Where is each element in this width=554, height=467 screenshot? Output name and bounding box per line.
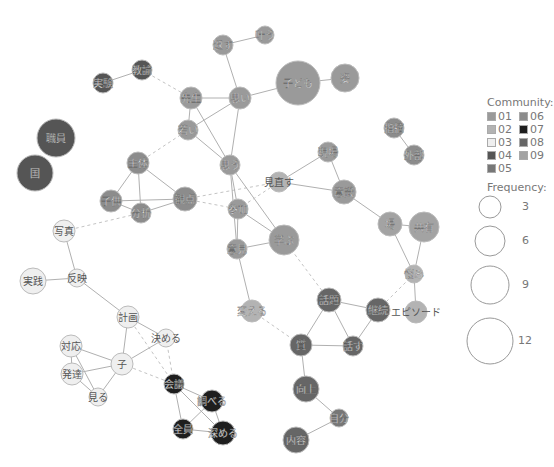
node-bunseki[interactable]: 分析 — [131, 203, 151, 223]
node-label: 子 — [117, 359, 127, 370]
legend-item-01: 01 — [487, 110, 519, 122]
node-label: 職員 — [46, 133, 66, 144]
node-label: 若い — [178, 124, 198, 136]
node-label: 見直す — [264, 176, 294, 188]
node-sensei[interactable]: 先生 — [180, 87, 202, 109]
node-kaesu[interactable]: 返す — [213, 35, 233, 55]
edge-dashed — [128, 317, 174, 384]
node-ishiki[interactable]: 意識 — [332, 180, 356, 204]
node-episode[interactable]: エピソード — [391, 301, 441, 323]
legend-swatch — [487, 112, 496, 121]
node-kaigi[interactable]: 会議 — [164, 374, 184, 394]
node-label: 参加 — [228, 203, 248, 215]
node-iken[interactable]: 意見 — [227, 239, 247, 259]
node-label: 分析 — [131, 207, 151, 219]
node-label: 話題 — [319, 294, 339, 306]
node-shiteki[interactable]: 指摘 — [384, 118, 404, 138]
node-taiou[interactable]: 対応 — [60, 335, 82, 357]
legend-label: 05 — [498, 162, 512, 175]
frequency-circle-6 — [475, 226, 505, 256]
node-ba[interactable]: 場 — [378, 212, 402, 236]
node-label: 外部 — [404, 149, 424, 161]
edges-layer — [33, 35, 424, 440]
frequency-circle-9 — [471, 266, 509, 304]
node-label: 向上 — [296, 383, 316, 395]
node-kodomo[interactable]: 子ども — [276, 61, 320, 105]
legend-swatch — [487, 138, 496, 147]
node-shokuin[interactable]: 職員 — [37, 119, 75, 157]
node-kuni[interactable]: 国 — [17, 155, 53, 191]
node-jikken[interactable]: 実験 — [93, 73, 113, 93]
frequency-label: 3 — [522, 200, 529, 213]
legend-label: 04 — [498, 149, 512, 162]
node-shiraberu[interactable]: 調べる — [197, 390, 227, 412]
community-legend-title: Community: — [487, 96, 554, 109]
frequency-label: 9 — [522, 278, 529, 291]
node-kyouyu[interactable]: 教諭 — [132, 60, 152, 80]
node-label: 計画 — [118, 311, 138, 323]
node-jissen[interactable]: 実践 — [20, 268, 46, 294]
node-shashin[interactable]: 写真 — [53, 220, 75, 242]
legend-label: 07 — [530, 123, 544, 136]
legend-swatch — [519, 151, 528, 160]
node-label: 調べる — [197, 395, 227, 407]
legend-label: 08 — [530, 136, 544, 149]
node-naiyou[interactable]: 内容 — [283, 427, 309, 453]
frequency-circle-3 — [479, 196, 501, 218]
node-ko[interactable]: 子 — [111, 353, 133, 375]
node-wakai[interactable]: 若い — [178, 120, 198, 140]
node-keizoku[interactable]: 継続 — [366, 298, 390, 322]
node-kanten[interactable]: 観点 — [173, 187, 197, 211]
node-kodomo2[interactable]: 子供 — [100, 190, 122, 212]
node-label: 返す — [213, 40, 233, 51]
node-zenin[interactable]: 全員 — [173, 419, 193, 439]
node-nayami[interactable]: 悩み — [404, 265, 424, 283]
node-fukameru[interactable]: 深める — [208, 421, 238, 445]
community-legend: Community: 010602070308040905 — [487, 96, 554, 174]
node-hanasu[interactable]: 話す — [343, 336, 363, 356]
node-label: 子供 — [101, 195, 121, 207]
legend-item-03: 03 — [487, 136, 519, 148]
node-label: 共有 — [414, 221, 434, 233]
node-label: 自分 — [329, 412, 349, 424]
node-kyouyuu[interactable]: 共有 — [409, 212, 439, 242]
legend-swatch — [487, 151, 496, 160]
node-label: 姿 — [340, 72, 350, 84]
legend-label: 03 — [498, 136, 512, 149]
node-shutai[interactable]: 主体 — [127, 152, 149, 174]
node-jigyou[interactable]: 自分 — [329, 409, 349, 427]
node-omoi[interactable]: 思い — [229, 87, 251, 109]
node-manabu[interactable]: 学ぶ — [269, 225, 299, 255]
node-label: 観点 — [175, 193, 195, 205]
legend-item-04: 04 — [487, 149, 519, 161]
node-sanka[interactable]: 参加 — [228, 199, 248, 219]
node-label: 継続 — [368, 304, 388, 316]
node-gaibu[interactable]: 外部 — [404, 145, 424, 165]
node-hattatsu[interactable]: 発達 — [61, 363, 83, 385]
node-sugata[interactable]: 姿 — [331, 64, 359, 92]
node-label: 決める — [151, 333, 181, 344]
legend-swatch — [487, 125, 496, 134]
frequency-label: 6 — [522, 234, 529, 247]
node-omou[interactable]: 思う — [220, 155, 240, 175]
node-hanei[interactable]: 反映 — [67, 269, 87, 287]
node-label: エピソード — [391, 307, 441, 318]
node-shitsu[interactable]: 質 — [290, 334, 312, 356]
node-keikaku[interactable]: 計画 — [117, 306, 139, 328]
node-label: 指摘 — [384, 122, 404, 134]
node-genba[interactable]: 現場 — [318, 142, 338, 162]
edge-dashed — [64, 213, 141, 231]
node-wadai[interactable]: 話題 — [317, 288, 341, 312]
legend-label: 09 — [530, 149, 544, 162]
node-label: 見る — [88, 392, 108, 403]
node-label: 思い — [230, 93, 250, 104]
node-label: 学ぶ — [274, 234, 294, 246]
node-koujou[interactable]: 向上 — [293, 376, 319, 402]
legend-item-05: 05 — [487, 162, 519, 174]
frequency-legend-title: Frequency: — [487, 181, 547, 194]
node-label: 質 — [296, 339, 306, 351]
node-kanau[interactable]: 叶う — [255, 26, 275, 44]
node-label: 深める — [208, 428, 238, 439]
node-miru[interactable]: 見る — [88, 388, 108, 406]
